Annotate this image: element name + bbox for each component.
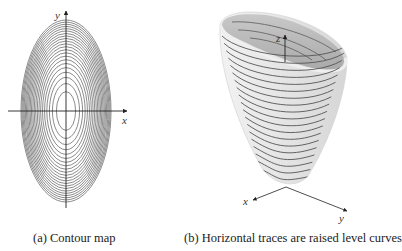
x-axis-3d-label: x: [242, 195, 248, 207]
contour-map-panel: x y: [8, 9, 127, 208]
caption-raised-level-curves: (b) Horizontal traces are raised level c…: [184, 231, 402, 246]
paraboloid-panel: z x y: [220, 12, 347, 224]
y-axis-3d-label: y: [338, 212, 344, 224]
x-axis-3d: [253, 187, 286, 200]
x-axis-label: x: [121, 114, 127, 126]
z-axis-label: z: [275, 32, 281, 44]
y-axis-label: y: [54, 9, 60, 21]
y-axis-3d: [286, 187, 347, 211]
caption-contour-map: (a) Contour map: [33, 231, 116, 246]
